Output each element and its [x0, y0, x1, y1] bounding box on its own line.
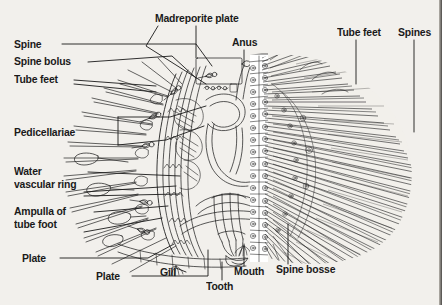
right-spine-fan — [262, 36, 418, 271]
label-tube-feet-left: Tube feet — [14, 73, 58, 86]
leader-gill — [176, 268, 186, 272]
leader-water-ring-b — [84, 186, 176, 192]
label-ampulla-line2: tube foot — [14, 218, 57, 231]
diagram-artwork — [60, 26, 418, 280]
label-spine-bosse: Spine bosse — [276, 263, 335, 276]
urchin-anatomy-figure — [0, 0, 442, 305]
label-anus: Anus — [232, 36, 257, 49]
label-spine: Spine — [14, 38, 41, 51]
label-pedicellariae: Pedicellariae — [14, 126, 75, 139]
label-plate-bottom: Plate — [96, 270, 120, 283]
label-gill: Gill — [160, 266, 176, 279]
leader-plate-left — [60, 244, 174, 258]
pedicellariae-group — [127, 72, 217, 235]
leader-pedicellariae-a — [118, 106, 206, 117]
leader-ampulla-a — [94, 206, 168, 212]
label-water-vascular-ring-line1: Water — [14, 165, 42, 178]
label-tube-feet-right: Tube feet — [337, 26, 381, 39]
leader-ampulla-b — [84, 218, 162, 232]
label-mouth: Mouth — [234, 265, 264, 278]
label-spines: Spines — [398, 26, 431, 39]
label-ampulla-line1: Ampulla of — [14, 205, 66, 218]
label-spine-bolus: Spine bolus — [14, 55, 71, 68]
label-tooth: Tooth — [206, 280, 233, 293]
label-madreporite-plate: Madreporite plate — [155, 12, 239, 25]
label-plate-left: Plate — [22, 252, 46, 265]
leader-spine — [62, 44, 212, 66]
label-water-vascular-ring-line2: vascular ring — [14, 178, 76, 191]
